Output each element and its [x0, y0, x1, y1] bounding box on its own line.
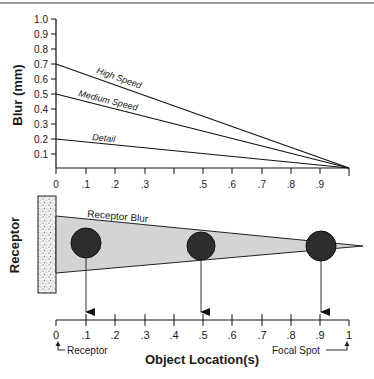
svg-text:0.9: 0.9	[34, 29, 48, 40]
object-at-0-1	[71, 228, 101, 258]
focal-spot-hook-arrowhead	[345, 341, 350, 346]
svg-text:0.3: 0.3	[34, 119, 48, 130]
object-at-0-9	[306, 231, 336, 261]
svg-text:0.7: 0.7	[34, 59, 48, 70]
svg-text:.2: .2	[111, 179, 120, 190]
svg-text:.9: .9	[316, 179, 325, 190]
location-axis: 0 .1 .2 .3 .4 .5 .6 .7 .8 .9 1 Receptor …	[53, 314, 352, 367]
svg-text:0: 0	[53, 179, 59, 190]
svg-text:.3: .3	[141, 179, 150, 190]
svg-text:1.0: 1.0	[34, 14, 48, 25]
svg-text:0.1: 0.1	[34, 149, 48, 160]
svg-text:.8: .8	[286, 329, 295, 341]
svg-text:0.2: 0.2	[34, 134, 48, 145]
receptor-side-label: Receptor	[7, 217, 22, 273]
focal-spot-hook-arrow	[326, 344, 347, 350]
svg-text:.5: .5	[198, 329, 207, 341]
y-ticks	[51, 19, 56, 154]
svg-text:0.4: 0.4	[34, 104, 48, 115]
x-ticks	[56, 168, 349, 176]
label-medium-speed: Medium Speed	[78, 88, 140, 113]
receptor-diagram: Receptor Receptor Blur	[7, 196, 363, 312]
y-axis-title: Blur (mm)	[10, 64, 25, 125]
svg-text:1: 1	[346, 329, 352, 341]
series-medium-speed	[56, 94, 349, 168]
receptor-hook-arrowhead	[56, 341, 61, 346]
svg-text:.3: .3	[140, 329, 149, 341]
svg-text:.1: .1	[82, 179, 91, 190]
location-tick-labels: 0 .1 .2 .3 .4 .5 .6 .7 .8 .9 1	[53, 329, 352, 341]
receptor-note: Receptor	[67, 345, 108, 356]
svg-text:.9: .9	[315, 329, 324, 341]
svg-text:0.5: 0.5	[34, 89, 48, 100]
location-axis-title: Object Location(s)	[145, 352, 259, 367]
svg-text:0: 0	[53, 329, 59, 341]
svg-text:.4: .4	[169, 329, 178, 341]
svg-text:.5: .5	[199, 179, 208, 190]
x-tick-labels: 0 .1 .2 .3 .5 .6 .7 .8 .9	[53, 179, 324, 190]
svg-text:.6: .6	[228, 179, 237, 190]
svg-text:.6: .6	[227, 329, 236, 341]
svg-text:0.6: 0.6	[34, 74, 48, 85]
focal-spot-note: Focal Spot	[272, 345, 320, 356]
svg-text:.1: .1	[81, 329, 90, 341]
svg-text:.2: .2	[110, 329, 119, 341]
series-high-speed	[56, 64, 349, 168]
svg-text:0.8: 0.8	[34, 44, 48, 55]
svg-text:.7: .7	[257, 329, 266, 341]
series-detail	[56, 139, 349, 168]
blur-chart: Blur (mm) 1.0 0.9 0.8 0.7 0.6 0.5 0.4 0.…	[10, 14, 349, 190]
y-tick-labels: 1.0 0.9 0.8 0.7 0.6 0.5 0.4 0.3 0.2 0.1	[34, 14, 48, 160]
svg-text:.7: .7	[258, 179, 267, 190]
top-rule	[0, 2, 374, 4]
receptor-plate	[38, 196, 56, 293]
blur-diagram: Blur (mm) 1.0 0.9 0.8 0.7 0.6 0.5 0.4 0.…	[0, 0, 374, 379]
object-at-0-5	[187, 232, 215, 260]
svg-text:.8: .8	[287, 179, 296, 190]
